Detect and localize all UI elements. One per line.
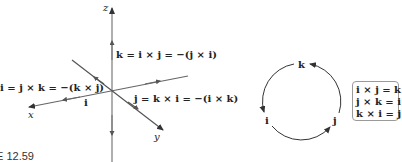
diagram-canvas xyxy=(0,0,402,162)
cycle-node-i: i xyxy=(265,116,269,126)
j-equation: j = k × i = −(i × k) xyxy=(134,94,238,104)
k-equation: k = i × j = −(j × i) xyxy=(116,50,217,60)
rule-ki: k × i = j xyxy=(356,108,395,120)
x-axis-label: x xyxy=(28,110,34,120)
figure-caption: E 12.59 xyxy=(0,150,34,162)
cross-product-rules-box: i × j = k j × k = i k × i = j xyxy=(352,81,399,121)
cycle-node-k: k xyxy=(298,60,305,70)
rule-jk: j × k = i xyxy=(356,96,395,108)
cycle-node-j: j xyxy=(333,116,337,126)
z-axis-label: z xyxy=(103,3,108,13)
rule-ij: i × j = k xyxy=(356,84,395,96)
cycle-diagram xyxy=(263,64,341,140)
i-vector-label: i xyxy=(84,98,88,108)
y-axis-label: y xyxy=(154,132,160,142)
i-equation: i = j × k = −(k × j) xyxy=(0,83,104,93)
